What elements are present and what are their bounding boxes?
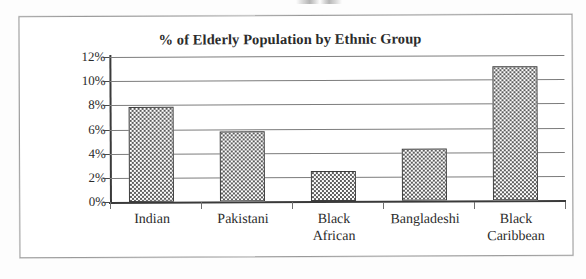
gridline — [109, 55, 564, 58]
x-axis-category-label: Indian — [101, 210, 201, 227]
y-axis-tick — [102, 57, 109, 58]
y-axis-labels: 0%2%4%6%8%10%12% — [57, 57, 106, 202]
x-axis-category-label: Black African — [283, 210, 383, 244]
chart-title: % of Elderly Population by Ethnic Group — [90, 30, 490, 49]
y-axis-tick — [103, 105, 110, 106]
bar — [311, 171, 356, 201]
y-axis-tick — [103, 178, 110, 179]
x-axis-category-label: Bangladeshi — [374, 210, 474, 227]
x-axis-tick — [474, 202, 475, 209]
x-axis-tick — [201, 202, 202, 209]
y-axis-tick — [103, 130, 110, 131]
bar-chart: % of Elderly Population by Ethnic Group … — [0, 0, 586, 279]
bar — [129, 106, 174, 202]
y-axis-tick — [102, 81, 109, 82]
x-axis-tick — [292, 202, 293, 209]
x-axis-category-label: Black Caribbean — [465, 210, 565, 244]
x-axis-tick — [383, 202, 384, 209]
x-axis-tick — [110, 202, 111, 209]
y-axis-tick — [103, 202, 110, 203]
bar — [402, 149, 447, 201]
bar — [220, 131, 265, 201]
y-axis-tick — [103, 154, 110, 155]
x-axis-category-label: Pakistani — [192, 210, 292, 227]
bar — [492, 66, 538, 200]
plot-area — [109, 55, 565, 202]
x-axis-tick — [565, 202, 566, 209]
